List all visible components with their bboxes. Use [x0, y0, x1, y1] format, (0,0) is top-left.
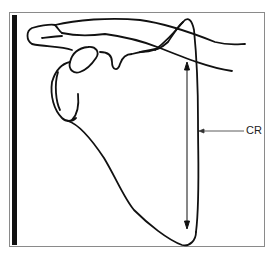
acromion-inner: [42, 36, 62, 38]
clavicle-outline: [55, 19, 245, 45]
cr-label: CR: [246, 124, 262, 136]
double-arrow: [185, 62, 190, 229]
glenoid-inner: [56, 72, 60, 110]
scapula-lateral-border: [68, 121, 196, 245]
scapula-illustration: [0, 0, 276, 253]
coracoid-outline: [70, 47, 98, 73]
scapula-spine-border: [155, 19, 199, 232]
cr-pointer-arrow: [199, 129, 244, 133]
spine-crossing: [140, 22, 183, 52]
glenoid-rim: [72, 94, 78, 120]
acromion-joint: [55, 25, 62, 33]
